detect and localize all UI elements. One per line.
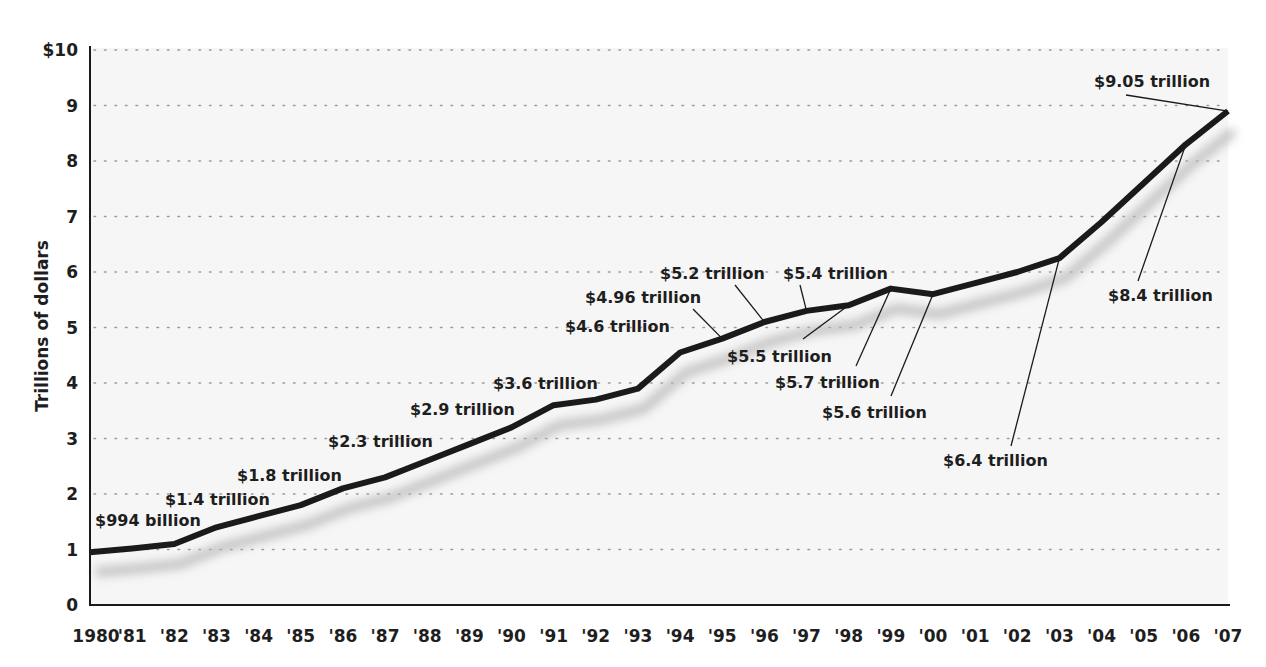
y-tick-label: 1 — [66, 540, 78, 560]
data-annotation: $2.3 trillion — [328, 432, 433, 451]
data-annotation: $3.6 trillion — [493, 374, 598, 393]
x-tick-label: '81 — [118, 626, 147, 646]
y-tick-label: 8 — [66, 151, 78, 171]
y-tick-label: 6 — [66, 262, 78, 282]
x-tick-label: '96 — [750, 626, 779, 646]
x-tick-label: '94 — [666, 626, 695, 646]
x-tick-label: '89 — [455, 626, 484, 646]
y-tick-label: $10 — [43, 40, 79, 60]
y-tick-label: 0 — [66, 595, 78, 615]
x-tick-label: '85 — [286, 626, 315, 646]
x-tick-label: '99 — [876, 626, 905, 646]
data-annotation: $9.05 trillion — [1094, 72, 1210, 91]
data-annotation: $2.9 trillion — [410, 400, 515, 419]
data-annotation: $4.6 trillion — [565, 317, 670, 336]
x-tick-label: '04 — [1087, 626, 1116, 646]
x-tick-label: '93 — [623, 626, 652, 646]
y-tick-label: 3 — [66, 429, 78, 449]
x-tick-label: '01 — [961, 626, 990, 646]
data-annotation: $5.7 trillion — [775, 373, 880, 392]
data-annotation: $5.2 trillion — [660, 264, 765, 283]
y-tick-label: 9 — [66, 96, 78, 116]
x-tick-label: '86 — [328, 626, 357, 646]
data-annotation: $6.4 trillion — [943, 451, 1048, 470]
x-tick-label: '91 — [539, 626, 568, 646]
x-tick-label: '88 — [413, 626, 442, 646]
x-tick-label: '02 — [1003, 626, 1032, 646]
data-annotation: $994 billion — [95, 511, 201, 530]
x-tick-label: '97 — [792, 626, 821, 646]
data-annotation: $5.6 trillion — [822, 403, 927, 422]
x-tick-label: '95 — [708, 626, 737, 646]
x-tick-label: '92 — [581, 626, 610, 646]
data-annotation: $1.4 trillion — [165, 490, 270, 509]
x-tick-label: '82 — [160, 626, 189, 646]
debt-line-chart: $994 billion$1.4 trillion$1.8 trillion$2… — [0, 0, 1266, 667]
data-annotation: $4.96 trillion — [585, 288, 701, 307]
y-tick-label: 5 — [66, 318, 78, 338]
x-tick-label: '84 — [244, 626, 273, 646]
y-tick-label: 7 — [66, 207, 78, 227]
x-tick-label: '03 — [1045, 626, 1074, 646]
data-annotation: $8.4 trillion — [1108, 286, 1213, 305]
data-annotation: $1.8 trillion — [237, 466, 342, 485]
x-tick-labels: 1980'81'82'83'84'85'86'87'88'89'90'91'92… — [72, 626, 1242, 646]
x-tick-label: '98 — [834, 626, 863, 646]
x-tick-label: '90 — [497, 626, 526, 646]
y-axis-label: Trillions of dollars — [32, 240, 52, 412]
x-tick-label: '83 — [202, 626, 231, 646]
y-tick-label: 4 — [66, 373, 78, 393]
y-tick-label: 2 — [66, 484, 78, 504]
data-annotation: $5.5 trillion — [727, 347, 832, 366]
x-tick-label: '00 — [919, 626, 948, 646]
x-tick-label: '06 — [1171, 626, 1200, 646]
data-annotation: $5.4 trillion — [783, 264, 888, 283]
x-tick-label: '87 — [371, 626, 400, 646]
x-tick-label: '05 — [1129, 626, 1158, 646]
x-tick-label: 1980 — [72, 626, 119, 646]
x-tick-label: '07 — [1214, 626, 1243, 646]
